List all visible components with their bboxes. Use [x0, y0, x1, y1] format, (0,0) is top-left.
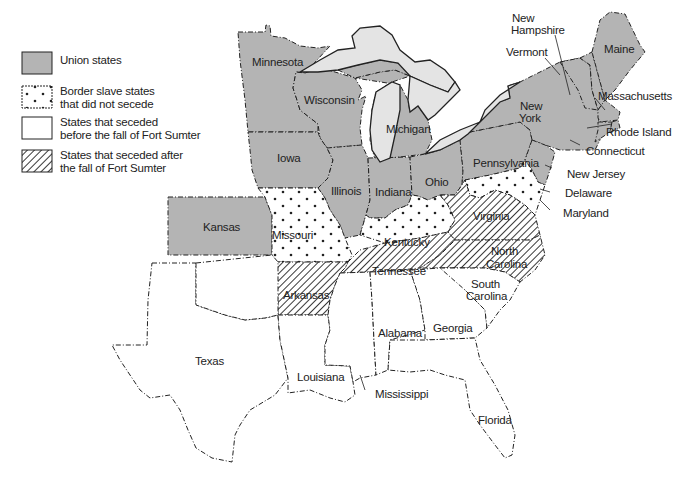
- label-arkansas: Arkansas: [283, 289, 330, 301]
- label-missouri: Missouri: [272, 229, 313, 241]
- label-virginia: Virginia: [473, 210, 510, 222]
- civil-war-map: Union states Border slave states that di…: [0, 0, 682, 485]
- label-georgia: Georgia: [433, 322, 473, 334]
- label-kansas: Kansas: [203, 221, 241, 233]
- legend-item-after: States that seceded after the fall of Fo…: [22, 149, 183, 174]
- legend-label-before-1: States that seceded: [60, 116, 158, 128]
- label-delaware: Delaware: [565, 187, 612, 199]
- legend: Union states Border slave states that di…: [22, 52, 201, 174]
- label-new-york-2: York: [519, 112, 541, 124]
- label-minnesota: Minnesota: [252, 56, 304, 68]
- label-new-jersey: New Jersey: [567, 168, 626, 180]
- label-south-carolina-1: South: [471, 278, 500, 290]
- legend-label-after-1: States that seceded after: [60, 149, 183, 161]
- legend-label-before-2: before the fall of Fort Sumter: [60, 129, 201, 141]
- label-wisconsin: Wisconsin: [304, 94, 355, 106]
- legend-label-union: Union states: [60, 54, 122, 66]
- label-rhode-island: Rhode Island: [606, 126, 671, 138]
- label-maryland: Maryland: [563, 207, 609, 219]
- label-connecticut: Connecticut: [586, 145, 646, 157]
- legend-swatch-union: [22, 52, 52, 74]
- legend-item-border: Border slave states that did not secede: [22, 85, 155, 110]
- label-indiana: Indiana: [375, 186, 412, 198]
- legend-swatch-border: [22, 86, 52, 108]
- label-kentucky: Kentucky: [384, 236, 430, 248]
- legend-swatch-after: [22, 150, 52, 172]
- label-illinois: Illinois: [331, 185, 362, 197]
- label-mississippi: Mississippi: [375, 388, 428, 400]
- label-iowa: Iowa: [277, 152, 301, 164]
- legend-label-border-2: that did not secede: [60, 98, 153, 110]
- label-north-carolina-1: North: [491, 245, 518, 257]
- label-vermont: Vermont: [506, 46, 548, 58]
- label-tennessee: Tennessee: [372, 265, 426, 277]
- legend-label-border-1: Border slave states: [60, 85, 155, 97]
- label-louisiana: Louisiana: [297, 371, 345, 383]
- legend-item-union: Union states: [22, 52, 122, 74]
- label-new-york-1: New: [520, 100, 543, 112]
- legend-label-after-2: the fall of Fort Sumter: [60, 162, 166, 174]
- label-alabama: Alabama: [378, 327, 423, 339]
- label-florida: Florida: [478, 414, 513, 426]
- label-pennsylvania: Pennsylvania: [473, 157, 540, 169]
- label-michigan: Michigan: [386, 123, 430, 135]
- label-massachusetts: Massachusetts: [598, 90, 673, 102]
- label-new-hampshire-1: New: [512, 12, 535, 24]
- label-ohio: Ohio: [425, 176, 449, 188]
- label-north-carolina-2: Carolina: [486, 258, 528, 270]
- label-new-hampshire-2: Hampshire: [511, 24, 565, 36]
- label-maine: Maine: [604, 43, 634, 55]
- label-texas: Texas: [195, 355, 224, 367]
- legend-item-before: States that seceded before the fall of F…: [22, 116, 201, 141]
- label-south-carolina-2: Carolina: [466, 290, 508, 302]
- legend-swatch-before: [22, 117, 52, 139]
